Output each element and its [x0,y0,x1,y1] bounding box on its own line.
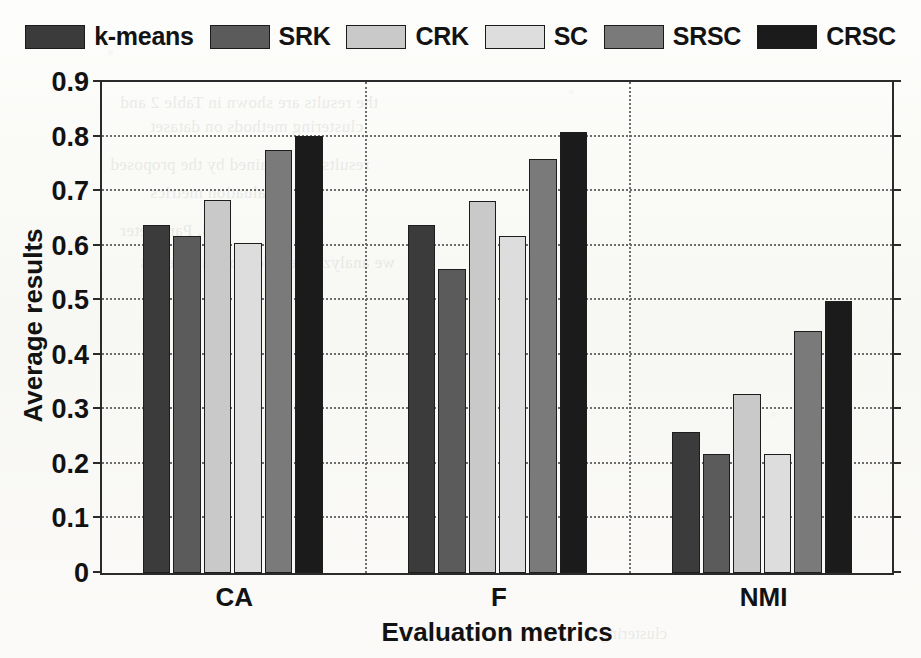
y-axis-tick [93,407,102,409]
y-axis-tick-label: 0.9 [51,67,89,98]
legend-swatch-icon [25,25,85,49]
bar-crsc-f [560,132,587,573]
gridline [102,135,892,137]
y-axis-tick [93,189,102,191]
legend-item: CRSC [757,22,896,51]
y-axis-tick-right [892,244,901,246]
legend-swatch-icon [210,25,270,49]
plot-area: 00.10.20.30.40.50.60.70.80.9 CAFNMI [100,80,894,575]
bar-srsc-ca [265,150,292,573]
y-axis-tick-label: 0.3 [51,394,89,425]
y-axis-tick-label: 0.2 [51,448,89,479]
legend-item-label: SRSC [673,22,741,51]
y-axis-tick [93,80,102,82]
gridline [102,189,892,191]
bar-srk-f [438,269,465,573]
y-axis-tick-label: 0.8 [51,121,89,152]
y-axis-tick-right [892,298,901,300]
y-axis-tick-label: 0.7 [51,176,89,207]
legend-item-label: k-means [94,22,193,51]
y-axis-tick [93,462,102,464]
legend-item: SRSC [604,22,741,51]
bar-crsc-ca [295,136,322,573]
y-axis-tick-label: 0.4 [51,339,89,370]
y-axis-tick-right [892,571,901,573]
bar-sc-f [499,236,526,573]
group-separator [629,82,631,573]
bar-k-means-nmi [672,432,699,573]
bar-sc-ca [234,243,261,573]
bar-crsc-nmi [825,301,852,573]
legend-item-label: SC [554,22,588,51]
y-axis-tick [93,516,102,518]
y-axis-tick-right [892,353,901,355]
bar-k-means-ca [143,225,170,573]
bar-crk-nmi [733,394,760,573]
legend-swatch-icon [346,25,406,49]
legend-item-label: CRSC [826,22,896,51]
y-axis-tick-label: 0.1 [51,503,89,534]
bar-k-means-f [408,225,435,573]
legend-item: SC [485,22,588,51]
legend-swatch-icon [604,25,664,49]
legend-item-label: SRK [279,22,331,51]
y-axis-tick-right [892,516,901,518]
y-axis-tick [93,135,102,137]
legend-swatch-icon [485,25,545,49]
bar-srsc-f [529,159,556,573]
y-axis-tick-right [892,135,901,137]
y-axis-tick [93,298,102,300]
chart-legend: k-meansSRKCRKSCSRSCCRSC [0,22,921,51]
bar-sc-nmi [764,454,791,573]
legend-item: SRK [210,22,331,51]
y-axis-tick-right [892,462,901,464]
bar-srsc-nmi [794,331,821,573]
y-axis-tick-right [892,189,901,191]
bar-crk-f [469,201,496,573]
legend-swatch-icon [757,25,817,49]
y-axis-tick [93,571,102,573]
y-axis-tick [93,244,102,246]
y-axis-tick-right [892,80,901,82]
legend-item: CRK [346,22,468,51]
x-axis-group-label: CA [216,582,254,613]
x-axis-group-label: NMI [740,582,788,613]
y-axis-tick-right [892,407,901,409]
y-axis-tick-label: 0.6 [51,230,89,261]
group-separator [365,82,367,573]
x-axis-group-label: F [491,582,507,613]
x-axis-title: Evaluation metrics [100,617,894,648]
bar-srk-ca [173,236,200,573]
legend-item-label: CRK [415,22,468,51]
legend-item: k-means [25,22,193,51]
bar-crk-ca [204,200,231,573]
bar-srk-nmi [703,454,730,573]
y-axis-tick-label: 0 [74,558,89,589]
y-axis-tick [93,353,102,355]
y-axis-title: Average results [18,126,49,526]
y-axis-tick-label: 0.5 [51,285,89,316]
